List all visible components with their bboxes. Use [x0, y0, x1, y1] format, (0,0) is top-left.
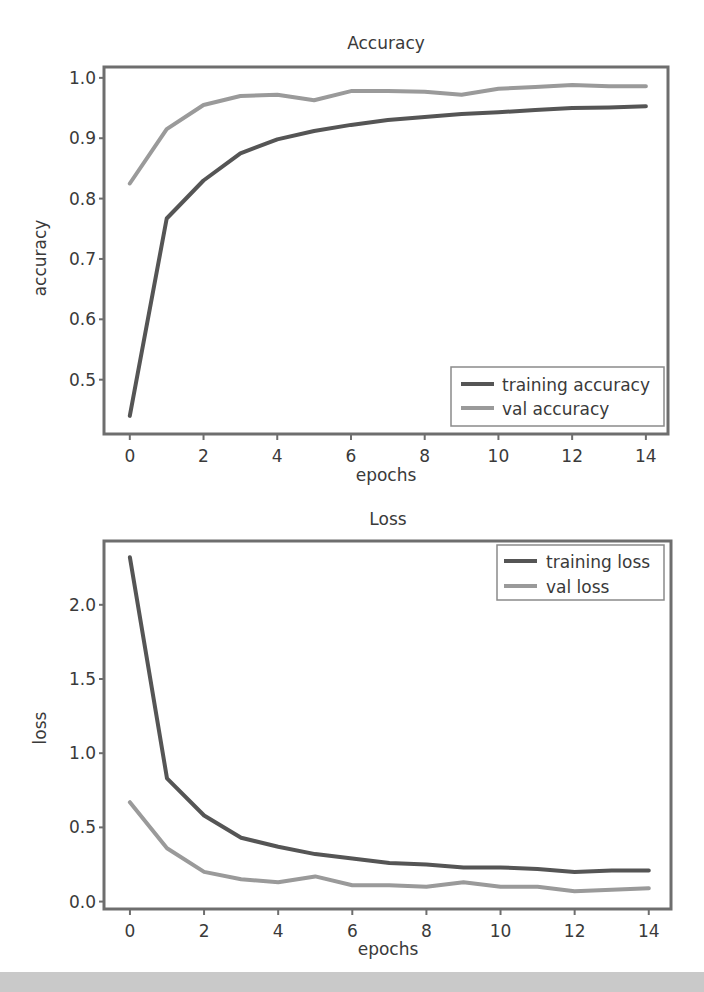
y-tick-label: 1.5: [69, 669, 96, 689]
x-tick-label: 10: [488, 446, 510, 466]
figure-canvas: Accuracy 0.50.60.70.80.91.0 02468101214 …: [0, 0, 704, 992]
legend-label-val: val accuracy: [502, 399, 609, 419]
x-tick-label: 8: [421, 921, 432, 941]
accuracy-chart: Accuracy 0.50.60.70.80.91.0 02468101214 …: [30, 33, 668, 485]
x-tick-label: 4: [273, 921, 284, 941]
y-axis-label: accuracy: [30, 220, 50, 297]
y-axis-ticks: 0.00.51.01.52.0: [69, 595, 104, 912]
legend-label-training: training loss: [546, 552, 650, 572]
x-tick-label: 2: [198, 446, 209, 466]
legend-label-val: val loss: [546, 577, 610, 597]
x-tick-label: 14: [638, 921, 660, 941]
legend-label-training: training accuracy: [502, 375, 650, 395]
y-tick-label: 2.0: [69, 595, 96, 615]
chart-title: Loss: [369, 509, 406, 529]
x-tick-label: 0: [125, 921, 136, 941]
y-axis-label: loss: [30, 711, 50, 744]
y-tick-label: 0.0: [69, 892, 96, 912]
x-tick-label: 4: [272, 446, 283, 466]
chart-title: Accuracy: [347, 33, 425, 53]
loss-chart: Loss 0.00.51.01.52.0 02468101214 loss ep…: [30, 509, 671, 959]
y-axis-ticks: 0.50.60.70.80.91.0: [69, 68, 104, 390]
y-tick-label: 0.7: [69, 249, 96, 269]
x-tick-label: 6: [347, 921, 358, 941]
y-tick-label: 1.0: [69, 743, 96, 763]
x-axis-ticks: 02468101214: [125, 909, 660, 941]
x-tick-label: 6: [346, 446, 357, 466]
bottom-band: [0, 972, 704, 992]
x-tick-label: 12: [564, 921, 586, 941]
x-tick-label: 10: [490, 921, 512, 941]
y-tick-label: 0.9: [69, 128, 96, 148]
x-tick-label: 14: [635, 446, 657, 466]
x-axis-ticks: 02468101214: [124, 434, 656, 466]
x-tick-label: 12: [561, 446, 583, 466]
legend: training loss val loss: [497, 545, 664, 600]
y-tick-label: 0.5: [69, 370, 96, 390]
y-tick-label: 0.6: [69, 309, 96, 329]
x-tick-label: 8: [419, 446, 430, 466]
y-tick-label: 0.8: [69, 189, 96, 209]
x-axis-label: epochs: [358, 939, 419, 959]
val-series-line: [130, 85, 646, 183]
plot-lines: [130, 557, 649, 891]
x-tick-label: 2: [199, 921, 210, 941]
training-series-line: [130, 557, 649, 872]
x-axis-label: epochs: [356, 465, 417, 485]
legend: training accuracy val accuracy: [451, 367, 664, 426]
y-tick-label: 0.5: [69, 817, 96, 837]
y-tick-label: 1.0: [69, 68, 96, 88]
x-tick-label: 0: [124, 446, 135, 466]
